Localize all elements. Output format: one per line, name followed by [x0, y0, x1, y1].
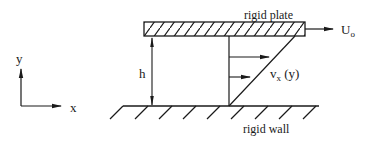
rigid-plate-label: rigid plate [244, 8, 293, 22]
y-axis-label: y [16, 51, 23, 66]
rigid-wall-hatching [110, 106, 316, 119]
rigid-wall-label: rigid wall [243, 122, 290, 136]
x-axis-label: x [70, 100, 77, 115]
rigid-wall [110, 106, 319, 119]
gap-height-label: h [139, 66, 146, 81]
rigid-plate [144, 22, 305, 36]
coordinate-axes [21, 69, 61, 106]
rigid-plate-body [144, 22, 305, 36]
velocity-profile-label: vx (y) [270, 66, 299, 83]
couette-flow-diagram: rigid plate Uo h vx (y) rigid wall y [0, 0, 374, 144]
plate-velocity-label: Uo [341, 22, 355, 39]
